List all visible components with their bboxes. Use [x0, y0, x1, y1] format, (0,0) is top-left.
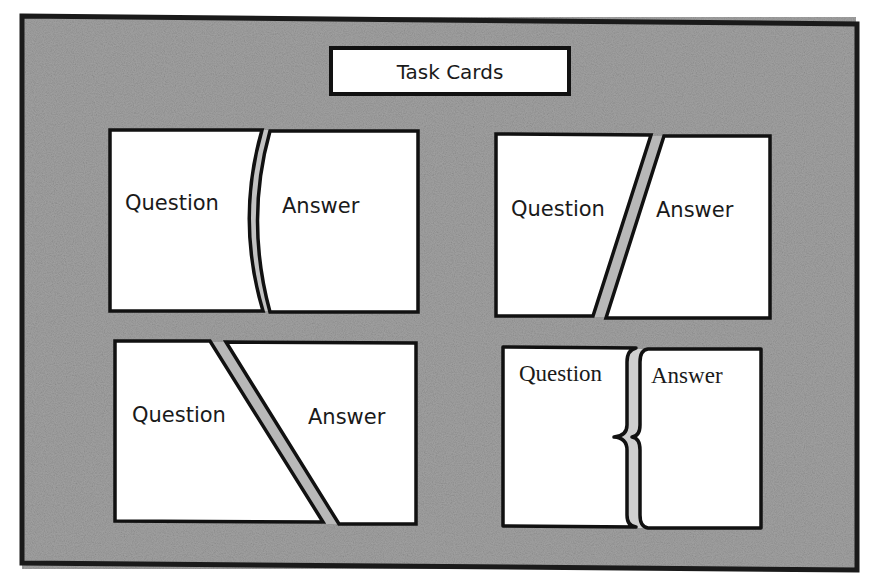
answer-piece	[258, 131, 419, 312]
task-card-curly-brace: Question Answer	[503, 347, 761, 528]
question-label: Question	[511, 197, 605, 221]
title-box: Task Cards	[331, 48, 569, 94]
task-cards-diagram: Task Cards Question Answer Question Answ…	[0, 0, 873, 587]
page-title: Task Cards	[396, 60, 504, 84]
task-card-curved: Question Answer	[110, 130, 418, 312]
answer-label: Answer	[308, 405, 386, 429]
task-card-backslash: Question Answer	[115, 341, 416, 524]
answer-label: Answer	[656, 198, 734, 222]
question-label: Question	[125, 191, 219, 215]
question-label: Question	[132, 403, 226, 427]
answer-label: Answer	[282, 194, 360, 218]
question-piece	[110, 130, 263, 311]
question-label: Question	[519, 361, 603, 386]
answer-label: Answer	[651, 363, 723, 388]
task-card-forward-slash: Question Answer	[496, 134, 770, 318]
